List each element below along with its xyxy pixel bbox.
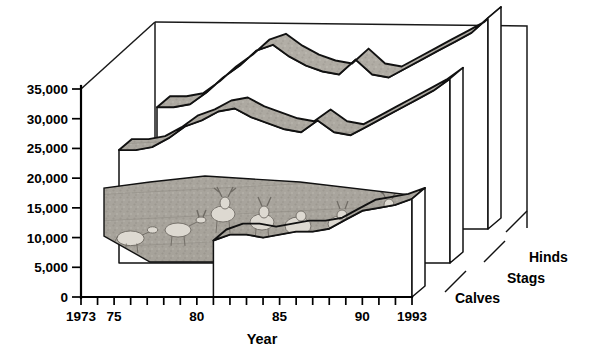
x-tick-label: 75 xyxy=(107,309,123,324)
y-axis-tick-labels: 05,00010,00015,00020,00025,00030,00035,0… xyxy=(27,82,68,305)
3d-area-chart: 05,00010,00015,00020,00025,00030,00035,0… xyxy=(0,0,591,361)
y-tick-label: 20,000 xyxy=(27,171,68,186)
chart-container: 05,00010,00015,00020,00025,00030,00035,0… xyxy=(0,0,591,361)
y-tick-label: 30,000 xyxy=(27,112,68,127)
series-label-calves: Calves xyxy=(455,290,500,306)
leader-line-calves xyxy=(445,271,466,292)
y-tick-label: 35,000 xyxy=(27,82,68,97)
y-tick-label: 5,000 xyxy=(34,260,68,275)
leader-line-stags xyxy=(484,241,505,262)
series-label-stags: Stags xyxy=(507,270,545,286)
leader-line-hinds xyxy=(506,211,527,232)
x-tick-label: 80 xyxy=(189,309,204,324)
x-axis-title: Year xyxy=(247,331,278,347)
frame-depth-top-left xyxy=(81,22,155,89)
x-tick-label: 1993 xyxy=(397,309,428,324)
x-tick-label: 90 xyxy=(355,309,370,324)
x-axis-tick-labels: 1973758085901993 xyxy=(66,309,428,324)
ribbon-end-cap xyxy=(488,7,501,229)
y-axis-ticks xyxy=(72,89,81,297)
ribbon-end-cap xyxy=(412,188,425,297)
x-tick-label: 85 xyxy=(272,309,288,324)
y-tick-label: 25,000 xyxy=(27,141,68,156)
y-tick-label: 10,000 xyxy=(27,231,68,246)
y-tick-label: 15,000 xyxy=(27,201,68,216)
x-tick-label: 1973 xyxy=(66,309,97,324)
x-axis-ticks xyxy=(81,297,412,305)
y-tick-label: 0 xyxy=(60,290,68,305)
series-label-hinds: Hinds xyxy=(529,249,568,265)
ribbon-end-cap xyxy=(450,68,463,263)
data-ribbons xyxy=(104,7,501,297)
